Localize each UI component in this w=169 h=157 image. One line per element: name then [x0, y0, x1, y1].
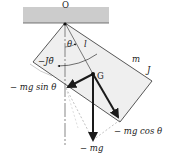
mass-label: m [132, 54, 140, 64]
length-label: l [84, 39, 87, 49]
angle-label: θ [67, 39, 72, 49]
construction-line [66, 88, 78, 128]
tangential-force-label: − mg sin θ [10, 82, 56, 92]
pivot-point [63, 22, 66, 25]
weight-label: − mg [80, 143, 104, 153]
pendulum-diagram: O θ l −Jθ̈ G m J − mg sin θ − mg cos θ −… [0, 0, 169, 157]
inertia-label: J [145, 65, 151, 75]
center-of-mass-label: G [97, 71, 104, 81]
inertia-torque-label: −Jθ̈ [38, 56, 54, 66]
normal-force-label: − mg cos θ [114, 126, 162, 136]
pivot-label: O [62, 0, 69, 10]
center-of-mass-point [91, 72, 95, 76]
